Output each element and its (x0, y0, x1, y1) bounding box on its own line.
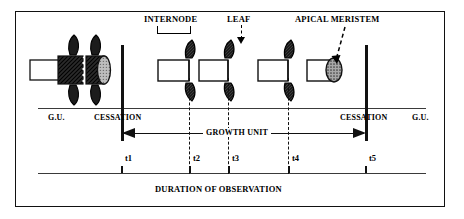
cessation-bar-left (121, 45, 124, 141)
rule-upper (38, 108, 426, 109)
internode-bracket (157, 26, 191, 34)
label-cessation-left: CESSATION (94, 113, 141, 122)
time-guide-t3 (228, 78, 229, 174)
timeline-label-t1: t1 (125, 153, 132, 163)
label-cessation-right: CESSATION (340, 113, 387, 122)
leaf (91, 35, 101, 55)
timeline-label-t4: t4 (292, 153, 299, 163)
label-internode: INTERNODE (144, 14, 197, 24)
timeline-tick-t2 (189, 166, 191, 173)
leaf (185, 83, 195, 101)
label-leaf: LEAF (227, 14, 250, 24)
timeline-label-t5: t5 (369, 153, 376, 163)
timeline-tick-t3 (228, 166, 230, 173)
growth-unit-diagram: INTERNODE LEAF APICAL MERISTEM G.U. CESS… (0, 0, 464, 219)
timeline-label-t2: t2 (193, 153, 200, 163)
timeline-tick-t1 (121, 166, 123, 173)
timeline-label-t3: t3 (232, 153, 239, 163)
leaf (69, 85, 79, 105)
leaf (69, 35, 79, 55)
rule-lower (38, 173, 426, 174)
leaf (284, 40, 294, 58)
growth-unit-arrowhead-left (122, 128, 135, 138)
previous-growth-unit (30, 35, 111, 105)
apical-meristem-pointer (332, 27, 346, 64)
leaf (284, 83, 294, 101)
timeline-tick-t5 (365, 166, 367, 173)
leaf (91, 85, 101, 105)
growth-unit-arrowhead-right (353, 128, 366, 138)
leaf (185, 40, 195, 58)
leaf (224, 40, 234, 58)
label-gu-left: G.U. (48, 113, 65, 122)
timeline-tick-t4 (288, 166, 290, 173)
label-growth-unit: GROWTH UNIT (203, 128, 271, 137)
label-apical-meristem: APICAL MERISTEM (295, 14, 379, 24)
label-duration-of-observation: DURATION OF OBSERVATION (155, 184, 282, 194)
apical-meristem-ellipse (326, 58, 342, 82)
time-guide-t2 (189, 78, 190, 174)
label-gu-right: G.U. (412, 113, 429, 122)
cessation-bar-right (365, 45, 368, 141)
time-guide-t4 (288, 78, 289, 174)
leaf (224, 83, 234, 101)
leaf-pointer-arrowhead (237, 37, 245, 44)
